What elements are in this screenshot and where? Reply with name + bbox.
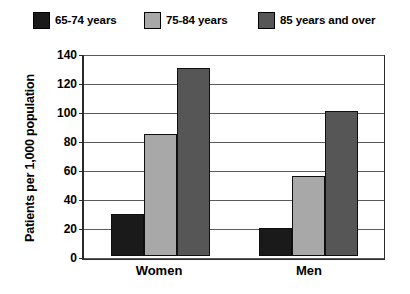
y-tick-mark [79, 84, 84, 85]
y-tick-label: 140 [57, 48, 77, 62]
y-tick-mark [79, 142, 84, 143]
bar-group [86, 55, 235, 256]
bar[interactable] [111, 214, 144, 256]
y-tick-label: 120 [57, 77, 77, 91]
x-axis-label: Men [234, 263, 384, 283]
y-tick-label: 100 [57, 106, 77, 120]
bar[interactable] [292, 176, 325, 256]
legend-entry[interactable]: 65-74 years [33, 12, 117, 29]
y-tick-label: 60 [64, 164, 77, 178]
y-tick-mark [79, 171, 84, 172]
legend-swatch-icon [144, 12, 161, 29]
y-tick-label: 20 [64, 222, 77, 236]
y-tick-label: 0 [70, 251, 77, 265]
x-axis-label: Women [84, 263, 234, 283]
y-tick-mark [79, 200, 84, 201]
y-tick-mark [79, 113, 84, 114]
bar-chart-figure: 65-74 years75-84 years85 years and over … [0, 0, 410, 294]
legend-label: 85 years and over [280, 12, 375, 29]
plot-area: 020406080100120140 [82, 55, 385, 260]
legend-label: 75-84 years [166, 12, 228, 29]
y-tick-label: 40 [64, 193, 77, 207]
legend-swatch-icon [258, 12, 275, 29]
bars-layer [86, 55, 383, 256]
y-tick-mark [79, 55, 84, 56]
plot-wrapper: 020406080100120140 [82, 55, 385, 260]
y-tick-mark [79, 229, 84, 230]
legend-label: 65-74 years [55, 12, 117, 29]
gridline [84, 258, 384, 259]
bar[interactable] [144, 134, 177, 256]
chart-legend: 65-74 years75-84 years85 years and over [0, 10, 410, 34]
bar-group [235, 55, 384, 256]
y-tick-label: 80 [64, 135, 77, 149]
x-axis-labels: WomenMen [84, 263, 384, 283]
bar[interactable] [177, 68, 210, 257]
bar[interactable] [259, 228, 292, 256]
y-tick-mark [79, 258, 84, 259]
bar[interactable] [325, 111, 358, 256]
legend-swatch-icon [33, 12, 50, 29]
legend-entry[interactable]: 85 years and over [258, 12, 375, 29]
y-axis-title: Patients per 1,000 population [23, 54, 41, 262]
legend-entry[interactable]: 75-84 years [144, 12, 228, 29]
